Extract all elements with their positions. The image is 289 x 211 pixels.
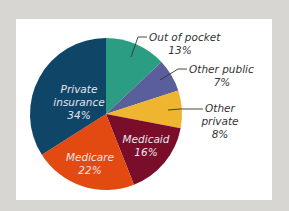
label-out-of-pocket-name: Out of pocket: [149, 31, 221, 43]
label-other-public-value: 7%: [214, 76, 231, 88]
label-other-private: Other private 8%: [200, 102, 238, 140]
label-private-insurance-name-2: insurance: [53, 96, 104, 108]
label-medicaid-name: Medicaid: [123, 133, 170, 145]
label-out-of-pocket-value: 13%: [168, 44, 191, 56]
pie-slices: [30, 38, 182, 190]
pie-chart: Out of pocket 13% Other public 7% Other …: [0, 0, 289, 211]
label-other-private-name-2: private: [200, 115, 238, 127]
label-private-insurance-value: 34%: [67, 109, 90, 121]
label-medicare-name: Medicare: [66, 151, 114, 163]
label-other-private-name-1: Other: [205, 102, 235, 114]
leader-line-other-private: [168, 109, 203, 110]
label-other-private-value: 8%: [212, 128, 229, 140]
label-other-public-name: Other public: [189, 63, 254, 75]
label-other-public: Other public 7%: [189, 63, 254, 88]
label-out-of-pocket: Out of pocket 13%: [149, 31, 221, 56]
label-private-insurance-name-1: Private: [61, 83, 98, 95]
label-medicaid-value: 16%: [134, 146, 157, 158]
label-medicare-value: 22%: [78, 164, 101, 176]
